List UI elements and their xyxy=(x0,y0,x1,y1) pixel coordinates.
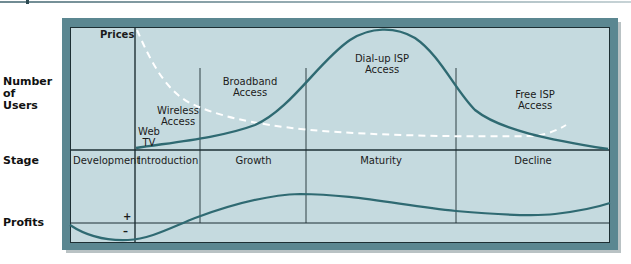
tech-label-wireless-access: Wireless Access xyxy=(156,105,200,127)
tech-label-web-tv: Web TV xyxy=(136,126,162,148)
stage-development: Development xyxy=(73,155,133,166)
stage-growth: Growth xyxy=(202,155,305,166)
stage-maturity: Maturity xyxy=(308,155,454,166)
profit-minus-sign: – xyxy=(123,226,128,237)
broadband-line-2: Access xyxy=(220,87,280,98)
wireless-line-1: Wireless xyxy=(156,105,200,116)
dialup-line-1: Dial-up ISP xyxy=(349,53,415,64)
tech-label-free-isp-access: Free ISP Access xyxy=(505,89,565,111)
prices-curve xyxy=(137,30,566,136)
dialup-line-2: Access xyxy=(349,64,415,75)
stage-decline: Decline xyxy=(458,155,608,166)
web-tv-line-2: TV xyxy=(136,137,162,148)
profit-plus-sign: + xyxy=(123,211,131,222)
wireless-line-2: Access xyxy=(156,116,200,127)
freeisp-line-2: Access xyxy=(505,100,565,111)
stage-introduction: Introduction xyxy=(137,155,199,166)
prices-axis-label: Prices xyxy=(100,29,134,40)
web-tv-line-1: Web xyxy=(136,126,162,137)
product-life-cycle-diagram xyxy=(0,0,631,264)
tech-label-broadband-access: Broadband Access xyxy=(220,76,280,98)
broadband-line-1: Broadband xyxy=(220,76,280,87)
tech-label-dial-up-isp-access: Dial-up ISP Access xyxy=(349,53,415,75)
freeisp-line-1: Free ISP xyxy=(505,89,565,100)
profits-curve xyxy=(70,194,610,240)
